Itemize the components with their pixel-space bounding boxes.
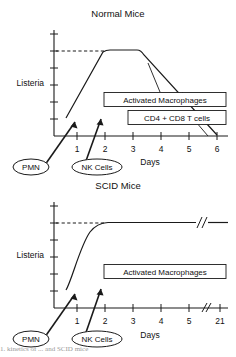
x-axis-label-scid: Days <box>140 330 159 340</box>
x-tick-label-normal-1: 1 <box>75 144 80 154</box>
annotation-text-activated-macrophages-normal: Activated Macrophages <box>123 96 207 105</box>
annotation-box-activated-macrophages-normal: Activated Macrophages <box>104 93 226 107</box>
chart-scid-mice: SCID Mice Listeria 1 2 3 <box>0 176 236 357</box>
chart-title-scid: SCID Mice <box>95 180 140 191</box>
x-tick-label-normal-5: 5 <box>187 144 192 154</box>
annotation-text-nkcells-scid: NK Cells <box>81 335 112 344</box>
x-tick-label-scid-21: 21 <box>215 316 225 326</box>
chart-title-normal: Normal Mice <box>91 8 144 19</box>
x-tick-label-normal-6: 6 <box>215 144 220 154</box>
figure-two-panel-listeria-kinetics: Normal Mice Listeria 1 2 3 4 5 6 Da <box>0 0 236 357</box>
annotation-text-pmn-normal: PMN <box>22 163 40 172</box>
figure-caption-partial: 1. kinetics of ... and SCID mice <box>0 345 236 355</box>
chart-normal-mice: Normal Mice Listeria 1 2 3 4 5 6 Da <box>0 0 236 176</box>
leader-line-macrophages-normal <box>148 63 160 92</box>
x-tick-label-scid-5: 5 <box>187 316 192 326</box>
annotation-box-activated-macrophages-scid: Activated Macrophages <box>104 265 226 279</box>
annotation-text-nkcells-normal: NK Cells <box>81 163 112 172</box>
x-tick-label-normal-4: 4 <box>159 144 164 154</box>
x-tick-label-scid-2: 2 <box>103 316 108 326</box>
annotation-text-activated-macrophages-scid: Activated Macrophages <box>123 268 207 277</box>
x-tick-label-scid-1: 1 <box>75 316 80 326</box>
annotation-box-cd4-cd8-tcells-normal: CD4 + CD8 T cells <box>128 111 226 125</box>
annotation-ellipse-pmn-normal: PMN <box>13 159 49 175</box>
x-axis-label-normal: Days <box>140 157 159 167</box>
curve-break-scid <box>197 217 207 228</box>
x-tick-label-normal-3: 3 <box>131 144 136 154</box>
data-curve-scid-left <box>66 223 196 291</box>
x-tick-label-scid-3: 3 <box>131 316 136 326</box>
annotation-ellipse-nkcells-normal: NK Cells <box>72 159 122 175</box>
x-tick-label-scid-4: 4 <box>159 316 164 326</box>
x-tick-label-normal-2: 2 <box>103 144 108 154</box>
y-axis-label-scid: Listeria <box>17 250 45 260</box>
y-axis-label-normal: Listeria <box>17 78 45 88</box>
annotation-text-cd4-cd8-tcells-normal: CD4 + CD8 T cells <box>144 114 210 123</box>
annotation-text-pmn-scid: PMN <box>22 335 40 344</box>
